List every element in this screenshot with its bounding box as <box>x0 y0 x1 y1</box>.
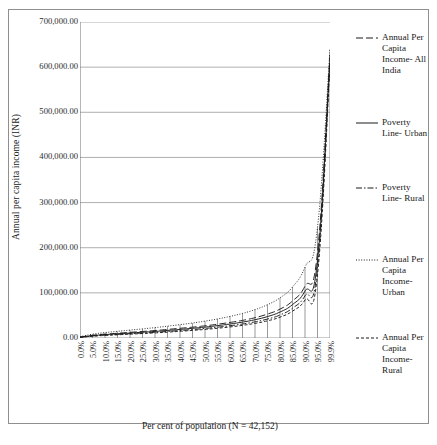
legend-label: Annual Per Capita Income- Rural <box>382 332 432 376</box>
x-tick-label: 40.0% <box>177 341 186 362</box>
legend-line-icon <box>356 336 378 347</box>
y-tick-label: 100,000.00 <box>4 287 78 297</box>
x-tick-label: 20.0% <box>127 341 136 362</box>
x-tick-label: 5.0% <box>89 341 98 358</box>
x-tick-label: 80.0% <box>277 341 286 362</box>
y-tick-label: 200,000.00 <box>4 242 78 252</box>
y-tick-label: 300,000.00 <box>4 197 78 207</box>
legend-line-icon <box>356 258 378 269</box>
x-tick-label: 85.0% <box>289 341 298 362</box>
x-tick-label: 15.0% <box>114 341 123 362</box>
legend-line-icon <box>356 36 378 47</box>
x-tick-label: 90.0% <box>302 341 311 362</box>
x-tick-label: 45.0% <box>189 341 198 362</box>
x-axis-tick-labels: 0.0%5.0%10.0%15.0%20.0%25.0%30.0%35.0%40… <box>80 341 336 401</box>
x-tick-label: 0.0% <box>77 341 86 358</box>
legend-entry: Annual Per Capita Income- Rural <box>356 332 432 376</box>
y-axis-tick-labels: 0.00100,000.00200,000.00300,000.00400,00… <box>0 0 78 445</box>
legend-label: Annual Per Capita Income- All India <box>382 32 432 76</box>
legend-entry: Poverty Line- Urban <box>356 117 432 139</box>
legend-label: Poverty Line- Urban <box>382 117 432 139</box>
y-tick-label: 400,000.00 <box>4 151 78 161</box>
y-tick-label: 700,000.00 <box>4 16 78 26</box>
legend-line-icon <box>356 186 378 197</box>
x-tick-label: 10.0% <box>102 341 111 362</box>
x-tick-label: 60.0% <box>227 341 236 362</box>
x-tick-label: 99.9% <box>327 341 336 362</box>
x-tick-label: 35.0% <box>164 341 173 362</box>
x-tick-label: 75.0% <box>264 341 273 362</box>
plot-area <box>80 22 330 338</box>
x-tick-label: 30.0% <box>152 341 161 362</box>
legend-entry: Annual Per Capita Income- Urban <box>356 254 432 298</box>
legend-entry: Poverty Line- Rural <box>356 182 432 204</box>
x-tick-label: 55.0% <box>214 341 223 362</box>
legend-label: Annual Per Capita Income- Urban <box>382 254 432 298</box>
x-axis-title: Per cent of population (N = 42,152) <box>80 421 340 431</box>
legend-entry: Annual Per Capita Income- All India <box>356 32 432 76</box>
x-tick-label: 50.0% <box>202 341 211 362</box>
legend-label: Poverty Line- Rural <box>382 182 432 204</box>
y-tick-label: 500,000.00 <box>4 106 78 116</box>
chart-figure: Annual per capita income (INR) 0.00100,0… <box>0 0 437 445</box>
legend-line-icon <box>356 121 378 132</box>
x-tick-label: 95.0% <box>314 341 323 362</box>
x-tick-label: 65.0% <box>239 341 248 362</box>
y-tick-label: 600,000.00 <box>4 61 78 71</box>
x-tick-label: 70.0% <box>252 341 261 362</box>
series-canvas <box>80 22 330 338</box>
x-tick-label: 25.0% <box>139 341 148 362</box>
y-tick-label: 0.00 <box>4 332 78 342</box>
